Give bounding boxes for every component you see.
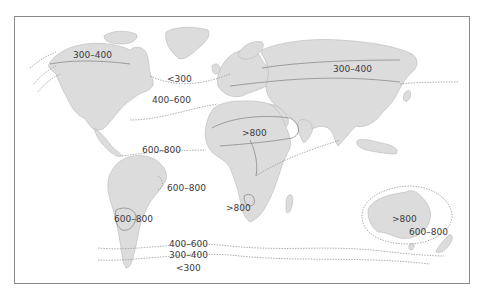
label-atlantic-mid: 400–600 — [152, 95, 191, 105]
label-australia-center: >800 — [392, 214, 417, 224]
contour-southern-2 — [98, 254, 430, 264]
world-map — [0, 0, 482, 298]
madagascar — [286, 195, 293, 213]
arctic-islands — [104, 31, 137, 44]
greenland — [166, 27, 209, 59]
label-southern-3: <300 — [176, 263, 201, 273]
central-america — [94, 128, 122, 157]
label-atlantic-tropic: 600–800 — [142, 145, 181, 155]
label-atlantic-north: <300 — [167, 74, 192, 84]
label-australia-south: 600–800 — [409, 227, 448, 237]
label-andes: 600–800 — [114, 214, 153, 224]
south-america — [108, 156, 167, 269]
new-zealand — [436, 235, 452, 253]
contour-pacific-east — [400, 82, 458, 84]
japan — [403, 91, 410, 102]
label-asia-north: 300–400 — [333, 64, 372, 74]
label-southern-2: 300–400 — [169, 250, 208, 260]
india — [298, 120, 313, 143]
label-na-north: 300–400 — [73, 50, 112, 60]
contour-southern-1 — [98, 244, 444, 256]
label-sahara: >800 — [242, 128, 267, 138]
southeast-asia-islands — [357, 139, 398, 154]
british-isles — [212, 64, 220, 74]
contour-atlantic-mid — [130, 104, 218, 120]
label-brazil-east: 600–800 — [167, 183, 206, 193]
tasmania — [409, 243, 414, 250]
label-south-africa: >800 — [226, 203, 251, 213]
label-southern-1: 400–600 — [169, 239, 208, 249]
